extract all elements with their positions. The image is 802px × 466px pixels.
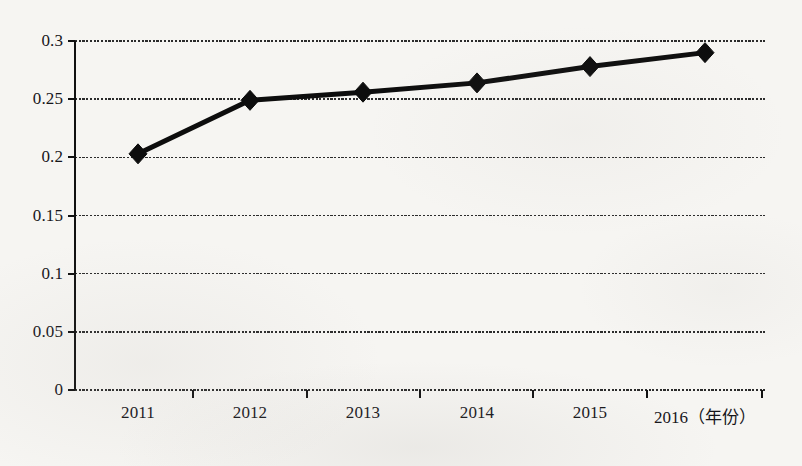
data-marker-2012 (241, 90, 259, 110)
gridlines-group (75, 41, 767, 390)
x-axis-tick-label-2014: 2014 (460, 403, 494, 423)
y-axis-tick-label-6: 0.3 (41, 31, 63, 51)
x-axis-tick-label-2015: 2015 (573, 403, 607, 423)
y-axis-tick-label-1: 0.05 (33, 322, 63, 342)
data-marker-2011 (129, 144, 147, 164)
y-axis-tick-label-0: 0 (54, 380, 63, 400)
x-axis-tick-label-2013: 2013 (346, 403, 380, 423)
y-axis-tick-label-3: 0.15 (33, 206, 63, 226)
x-axis-tick-label-2016: 2016（年份） (654, 403, 756, 428)
series-line-series-1 (138, 53, 705, 154)
x-axis-tick-label-2011: 2011 (121, 403, 155, 423)
x-tick-marks-group (193, 390, 762, 398)
x-axis-tick-label-2012: 2012 (233, 403, 267, 423)
y-axis-tick-label-4: 0.2 (41, 147, 63, 167)
data-marker-2015 (581, 57, 599, 77)
data-series-group (138, 53, 705, 154)
chart-plot-area (0, 0, 802, 466)
data-marker-2014 (468, 73, 486, 93)
line-chart-figure: 00.050.10.150.20.250.3 20112012201320142… (0, 0, 802, 466)
data-marker-2016 (696, 43, 714, 63)
y-axis-tick-label-5: 0.25 (33, 89, 63, 109)
y-axis-tick-label-2: 0.1 (41, 264, 63, 284)
